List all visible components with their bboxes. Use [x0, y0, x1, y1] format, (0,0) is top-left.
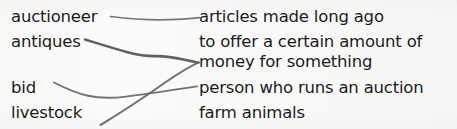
term-antiques[interactable]: antiques	[11, 34, 81, 51]
connector-line-auctioneer-to-articles	[111, 17, 200, 20]
definition-farm[interactable]: farm animals	[199, 105, 305, 122]
definition-offer-line1[interactable]: to offer a certain amount of	[199, 34, 422, 51]
connector-line-bid-to-person	[54, 83, 197, 98]
term-auctioneer[interactable]: auctioneer	[11, 9, 97, 26]
definition-articles[interactable]: articles made long ago	[199, 9, 384, 26]
definition-offer-line2[interactable]: money for something	[199, 54, 372, 71]
definition-person[interactable]: person who runs an auction	[199, 80, 424, 97]
term-bid[interactable]: bid	[11, 80, 36, 97]
matching-worksheet: auctioneer antiques bid livestock articl…	[0, 0, 457, 129]
term-livestock[interactable]: livestock	[11, 105, 82, 122]
connector-line-livestock-to-money	[101, 63, 199, 125]
connector-line-antiques-to-money	[85, 40, 199, 63]
